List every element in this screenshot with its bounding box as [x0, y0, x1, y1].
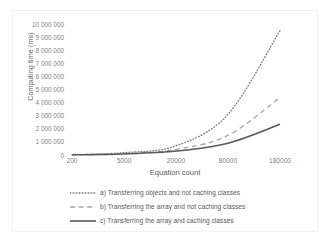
legend-swatch-solid-icon — [70, 217, 96, 225]
legend-label: c) Transferring the array and caching cl… — [100, 217, 234, 224]
legend-item-c[interactable]: c) Transferring the array and caching cl… — [70, 214, 310, 227]
x-axis-tick-label: 180000 — [269, 157, 291, 164]
chart-legend: a) Transferring objects and not caching … — [70, 186, 310, 228]
x-axis-tick-label: 80000 — [219, 157, 237, 164]
legend-swatch-dotted-icon — [70, 189, 96, 197]
series-line-c — [72, 124, 280, 155]
legend-label: a) Transferring objects and not caching … — [100, 189, 240, 196]
legend-item-a[interactable]: a) Transferring objects and not caching … — [70, 186, 310, 199]
chart-figure: Computing time (ms) 10 000 0009 000 0008… — [0, 0, 330, 241]
x-axis-tick-label: 20000 — [167, 157, 185, 164]
legend-label: b) Transferring the array and not cachin… — [100, 203, 245, 210]
legend-swatch-dashed-icon — [70, 203, 96, 211]
x-axis-title: Equation count — [60, 168, 290, 177]
x-axis-tick-label: 5000 — [117, 157, 132, 164]
legend-item-b[interactable]: b) Transferring the array and not cachin… — [70, 200, 310, 213]
x-axis-tick-label: 200 — [66, 157, 77, 164]
